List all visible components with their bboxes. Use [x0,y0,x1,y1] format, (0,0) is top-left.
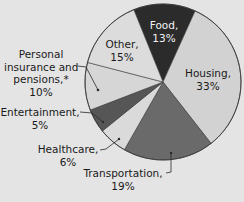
label-housing-name: Housing, [181,67,235,80]
label-other-name: Other, [102,38,142,51]
label-other: Other, 15% [102,38,142,63]
label-insurance-line2: insurance and [4,61,78,74]
label-insurance-line1: Personal [4,48,78,61]
leader-entertainment-dot [102,121,104,123]
label-insurance: Personal insurance and pensions,* 10% [4,48,78,98]
leader-healthcare-dot [118,138,120,140]
label-transportation-pct: 19% [80,180,166,193]
label-healthcare: Healthcare, 6% [36,143,100,168]
leader-transportation-dot [170,152,172,154]
leader-insurance-dot [97,89,100,92]
label-transportation: Transportation, 19% [80,167,166,192]
label-entertainment-pct: 5% [0,119,80,132]
label-other-pct: 15% [102,51,142,64]
label-food: Food, 13% [146,19,182,44]
label-transportation-name: Transportation, [80,167,166,180]
label-entertainment: Entertainment, 5% [0,106,80,131]
label-food-pct: 13% [146,32,182,45]
label-housing-pct: 33% [181,80,235,93]
label-insurance-pct: 10% [4,86,78,99]
label-housing: Housing, 33% [181,67,235,92]
label-insurance-line3: pensions,* [4,73,78,86]
label-food-name: Food, [146,19,182,32]
label-entertainment-name: Entertainment, [0,106,80,119]
label-healthcare-name: Healthcare, [36,143,100,156]
